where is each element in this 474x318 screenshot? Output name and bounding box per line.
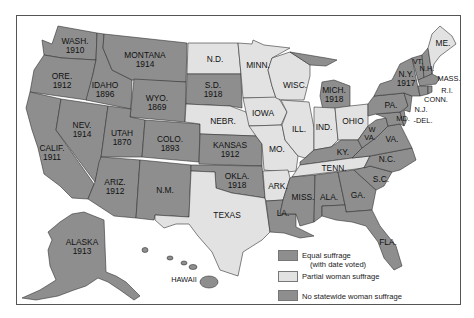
label-ri: R.I. (441, 86, 453, 95)
label-ok: OKLA.1918 (225, 171, 250, 190)
label-ms: MISS. (292, 192, 315, 202)
legend-swatch-none (278, 290, 298, 301)
state-ri (428, 86, 432, 94)
label-mi: MICH.1918 (322, 85, 346, 104)
us-suffrage-map: WASH.1910 ORE.1912 CALIF.1911 IDAHO1896 … (0, 0, 474, 318)
label-ny: N.Y.1917 (397, 69, 416, 88)
label-ut: UTAH1870 (111, 128, 133, 147)
legend-label-partial: Partial woman suffrage (302, 273, 380, 281)
label-ne: NEBR. (210, 116, 236, 126)
legend-swatch-partial (278, 271, 298, 282)
label-nh: N.H. (420, 64, 435, 73)
label-fl: FLA. (379, 237, 397, 247)
label-mn: MINN. (246, 60, 270, 70)
label-pa: PA. (385, 100, 398, 110)
label-ca: CALIF.1911 (39, 143, 64, 162)
label-ky: KY. (337, 147, 349, 157)
label-sc: S.C. (373, 174, 389, 184)
label-ct: CONN. (424, 95, 448, 104)
label-ma: MASS. (438, 74, 461, 83)
legend-sublabel-equal: (with date voted) (310, 261, 366, 269)
state-hi-4 (167, 256, 173, 260)
label-de: -DEL. (414, 116, 433, 125)
label-va: VA. (386, 134, 399, 144)
label-ia: IOWA (252, 108, 274, 118)
label-mo: MO. (269, 144, 285, 154)
state-hi-5 (142, 248, 148, 253)
label-oh: OHIO (342, 116, 364, 126)
label-me: ME. (436, 38, 451, 48)
label-wy: WYO.1869 (146, 93, 168, 112)
legend-label-equal: Equal suffrage (302, 252, 351, 260)
label-sd: S.D.1918 (204, 80, 223, 99)
label-ar: ARK. (268, 181, 288, 191)
legend-swatch-equal (278, 250, 298, 261)
label-md: MD. (396, 114, 410, 123)
label-or: ORE.1912 (52, 71, 72, 90)
label-tx: TEXAS (213, 210, 241, 220)
label-az: ARIZ.1912 (104, 177, 125, 196)
state-hi-2 (189, 265, 197, 270)
label-la: LA. (277, 208, 290, 218)
label-hi: HAWAII (171, 275, 197, 284)
state-hi-3 (181, 261, 187, 265)
label-al: ALA. (320, 192, 338, 202)
label-wi: WISC. (283, 80, 307, 90)
label-tn: TENN. (321, 163, 346, 173)
label-nm: N.M. (156, 185, 174, 195)
legend-label-none: No statewide woman suffrage (302, 293, 402, 301)
state-ak (22, 212, 140, 300)
label-nd: N.D. (207, 54, 224, 64)
label-nc: N.C. (379, 154, 396, 164)
state-hi-big (200, 276, 218, 288)
label-nj: N.J. (414, 105, 427, 114)
label-il: ILL. (292, 124, 306, 134)
label-in: IND. (316, 122, 333, 132)
label-co: COLO.1893 (157, 134, 183, 153)
label-nv: NEV.1914 (73, 120, 92, 139)
label-ga: GA. (351, 190, 365, 200)
